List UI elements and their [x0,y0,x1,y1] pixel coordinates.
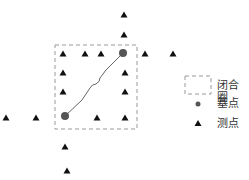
legend-survey-label: 测点 [217,118,239,130]
base-point-circle-icon [61,112,69,120]
legend-closure-icon [185,76,211,94]
survey-point-triangle-icon [122,115,129,121]
survey-point-triangle-icon [170,51,177,57]
legend-base-icon [196,102,201,107]
survey-point-triangle-icon [33,115,40,121]
survey-point-triangle-icon [122,89,129,95]
survey-point-triangle-icon [62,144,69,150]
survey-point-triangle-icon [60,51,67,57]
connection-path [65,53,123,116]
survey-point-triangle-icon [142,51,149,57]
survey-point-triangle-icon [3,115,10,121]
survey-point-triangle-icon [121,32,128,38]
survey-points [3,12,177,174]
base-point-circle-icon [119,49,127,57]
survey-point-triangle-icon [94,115,101,121]
survey-point-triangle-icon [121,12,128,18]
survey-point-triangle-icon [82,51,89,57]
legend-base-label: 基点 [217,98,239,110]
diagram-canvas [0,0,249,180]
survey-point-triangle-icon [98,51,105,57]
survey-point-triangle-icon [60,89,67,95]
survey-point-triangle-icon [122,70,129,76]
legend-survey-icon [195,120,202,126]
survey-point-triangle-icon [60,70,67,76]
survey-point-triangle-icon [64,168,71,174]
